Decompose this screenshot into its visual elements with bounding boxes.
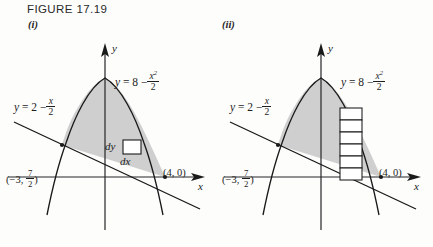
point-label-right-ii: (4, 0)	[379, 167, 402, 178]
parabola-equation-ii: y = 8 −x22	[341, 70, 385, 92]
strip-element	[340, 156, 362, 168]
x-axis-label-ii: x	[414, 180, 419, 192]
strip-element	[340, 168, 362, 180]
point-label-left-i: (−3, 72)	[6, 168, 38, 189]
panel-ii: y = 8 −x22 y = 2 −x2 (−3, 72) (4, 0) y x	[216, 30, 432, 247]
strip-element	[340, 144, 362, 156]
strip-stack-ii	[340, 108, 362, 180]
line-equation-i: y = 2 −x2	[14, 96, 55, 116]
strip-element	[340, 132, 362, 144]
parabola-equation-i: y = 8 −x22	[115, 70, 159, 92]
point-label-right-i: (4, 0)	[163, 167, 186, 178]
strip-element	[340, 120, 362, 132]
figure-title: FIGURE 17.19	[27, 3, 107, 15]
intersection-point-left-i	[60, 143, 64, 147]
strip-element	[340, 108, 362, 120]
y-axis-label-i: y	[112, 42, 117, 54]
x-axis-label-i: x	[198, 180, 203, 192]
dx-label-i: dx	[120, 155, 130, 167]
panel-label-i: (i)	[28, 19, 38, 30]
shaded-region-i	[62, 78, 165, 177]
panel-label-ii: (ii)	[222, 19, 235, 30]
area-element-i	[123, 140, 141, 154]
plot-ii	[216, 30, 432, 247]
point-label-left-ii: (−3, 72)	[222, 168, 254, 189]
dy-label-i: dy	[105, 140, 115, 152]
shaded-region-ii	[278, 78, 381, 177]
y-axis-label-ii: y	[328, 42, 333, 54]
intersection-point-left-ii	[276, 143, 280, 147]
line-equation-ii: y = 2 −x2	[230, 96, 271, 116]
figure-page: FIGURE 17.19 (i) (ii) y =	[0, 0, 433, 247]
plot-i	[0, 30, 216, 247]
panel-i: y = 8 −x22 y = 2 −x2 (−3, 72) (4, 0) dy …	[0, 30, 216, 247]
